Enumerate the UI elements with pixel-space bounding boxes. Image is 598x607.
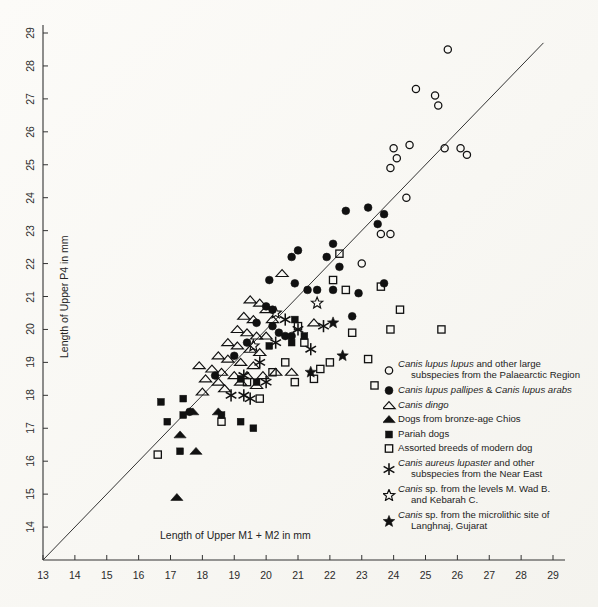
open-square-icon [383, 442, 398, 453]
y-tick-label: 26 [24, 126, 36, 138]
legend-item-label: Pariah dogs [398, 428, 449, 439]
data-point [158, 398, 165, 405]
x-tick-label: 23 [356, 569, 368, 581]
data-point [222, 339, 234, 346]
data-point [180, 412, 187, 419]
data-point [291, 379, 298, 386]
data-point [358, 260, 365, 267]
data-point [313, 286, 321, 294]
data-point [257, 372, 269, 379]
y-tick-label: 15 [24, 488, 36, 500]
series-0 [358, 46, 470, 267]
data-point [337, 350, 348, 361]
data-point [342, 286, 349, 293]
data-point [199, 375, 211, 382]
legend-item-label: Canis lupus pallipes & Canis lupus arabs [398, 384, 572, 395]
legend-item: Canis lupus lupus and other largesubspec… [383, 358, 595, 381]
y-tick-label: 23 [24, 225, 36, 237]
y-tick-label: 28 [24, 60, 36, 72]
data-point [374, 220, 382, 228]
data-point [463, 151, 470, 158]
data-point [226, 389, 237, 401]
legend-item: Canis lupus pallipes & Canis lupus arabs [383, 384, 595, 395]
data-point [403, 194, 410, 201]
x-tick-label: 21 [292, 569, 304, 581]
data-point [253, 379, 260, 386]
data-point [261, 376, 272, 388]
x-tick-label: 28 [515, 569, 527, 581]
data-point [288, 332, 296, 340]
data-point [329, 276, 336, 283]
data-point [286, 368, 298, 375]
legend-item-label: Canis aureus lupaster and othersubspecie… [398, 457, 542, 480]
y-tick-label: 25 [24, 159, 36, 171]
x-tick-label: 29 [547, 569, 559, 581]
data-point [371, 382, 378, 389]
data-point [323, 253, 331, 261]
data-point [365, 355, 372, 362]
legend: Canis lupus lupus and other largesubspec… [383, 358, 595, 535]
data-point [218, 418, 225, 425]
data-point [266, 343, 273, 350]
x-tick-label: 24 [388, 569, 400, 581]
data-point [326, 359, 333, 366]
data-point [387, 326, 394, 333]
data-point [412, 85, 419, 92]
data-point [177, 448, 184, 455]
data-point [254, 356, 265, 368]
data-point [364, 204, 372, 212]
data-point [308, 319, 320, 326]
filled-square-icon [383, 428, 398, 439]
data-point [387, 164, 394, 171]
x-tick-label: 26 [452, 569, 464, 581]
data-point [212, 352, 224, 359]
data-point [393, 155, 400, 162]
data-point [355, 289, 363, 297]
data-point [282, 359, 289, 366]
data-point [387, 230, 394, 237]
x-tick-label: 17 [165, 569, 177, 581]
data-point [329, 286, 337, 294]
legend-item: Canis dingo [383, 399, 595, 410]
legend-item-label: Canis dingo [398, 399, 449, 410]
data-point [435, 102, 442, 109]
y-tick-label: 18 [24, 389, 36, 401]
y-tick-label: 21 [24, 291, 36, 303]
legend-item-label: Assorted breeds of modern dog [398, 442, 532, 453]
data-point [342, 207, 350, 215]
legend-item: Assorted breeds of modern dog [383, 442, 595, 453]
data-point [219, 385, 231, 392]
data-point [237, 418, 244, 425]
x-tick-label: 27 [483, 569, 495, 581]
figure-page: 1314151617181920212223242526272829141516… [0, 0, 598, 607]
data-point [406, 141, 413, 148]
x-tick-label: 20 [260, 569, 272, 581]
y-tick-label: 16 [24, 455, 36, 467]
data-point [390, 145, 397, 152]
data-point [174, 431, 186, 438]
x-tick-label: 18 [197, 569, 209, 581]
legend-item-label: Canis sp. from the levels M. Wad B.and K… [398, 483, 550, 506]
data-point [431, 92, 438, 99]
data-point [206, 365, 218, 372]
data-point [288, 339, 295, 346]
data-point [265, 276, 273, 284]
data-point [250, 425, 257, 432]
data-point [317, 365, 324, 372]
x-tick-label: 22 [324, 569, 336, 581]
data-point [311, 297, 322, 308]
data-point [291, 279, 299, 287]
x-tick-label: 13 [37, 569, 49, 581]
y-tick-label: 24 [24, 192, 36, 204]
y-tick-label: 22 [24, 258, 36, 270]
legend-item: Canis sp. from the levels M. Wad B.and K… [383, 483, 595, 506]
x-axis-title: Length of Upper M1 + M2 in mm [160, 529, 311, 541]
legend-item: Canis aureus lupaster and othersubspecie… [383, 457, 595, 480]
y-axis-title: Length of Upper P4 in mm [58, 235, 70, 358]
data-point [154, 451, 161, 458]
data-point [280, 313, 291, 325]
filled-star-icon [383, 515, 398, 526]
data-point [444, 46, 451, 53]
legend-item: Dogs from bronze-age Chios [383, 413, 595, 424]
data-point [329, 240, 337, 248]
